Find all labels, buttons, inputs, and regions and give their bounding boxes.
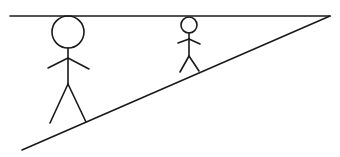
small-figure-right-leg xyxy=(189,56,199,71)
small-figure-left-arm xyxy=(178,39,189,43)
large-figure-left-arm xyxy=(48,58,68,68)
large-figure-right-leg xyxy=(68,84,86,122)
small-figure-right-arm xyxy=(189,39,200,44)
large-figure-left-leg xyxy=(50,84,68,123)
large-figure-right-arm xyxy=(68,58,89,69)
small-figure-left-leg xyxy=(180,56,189,72)
small-stick-figure xyxy=(178,17,200,72)
diagram-canvas xyxy=(0,0,340,157)
small-figure-head xyxy=(181,17,197,33)
large-figure-head xyxy=(52,16,84,48)
large-stick-figure xyxy=(48,16,89,123)
